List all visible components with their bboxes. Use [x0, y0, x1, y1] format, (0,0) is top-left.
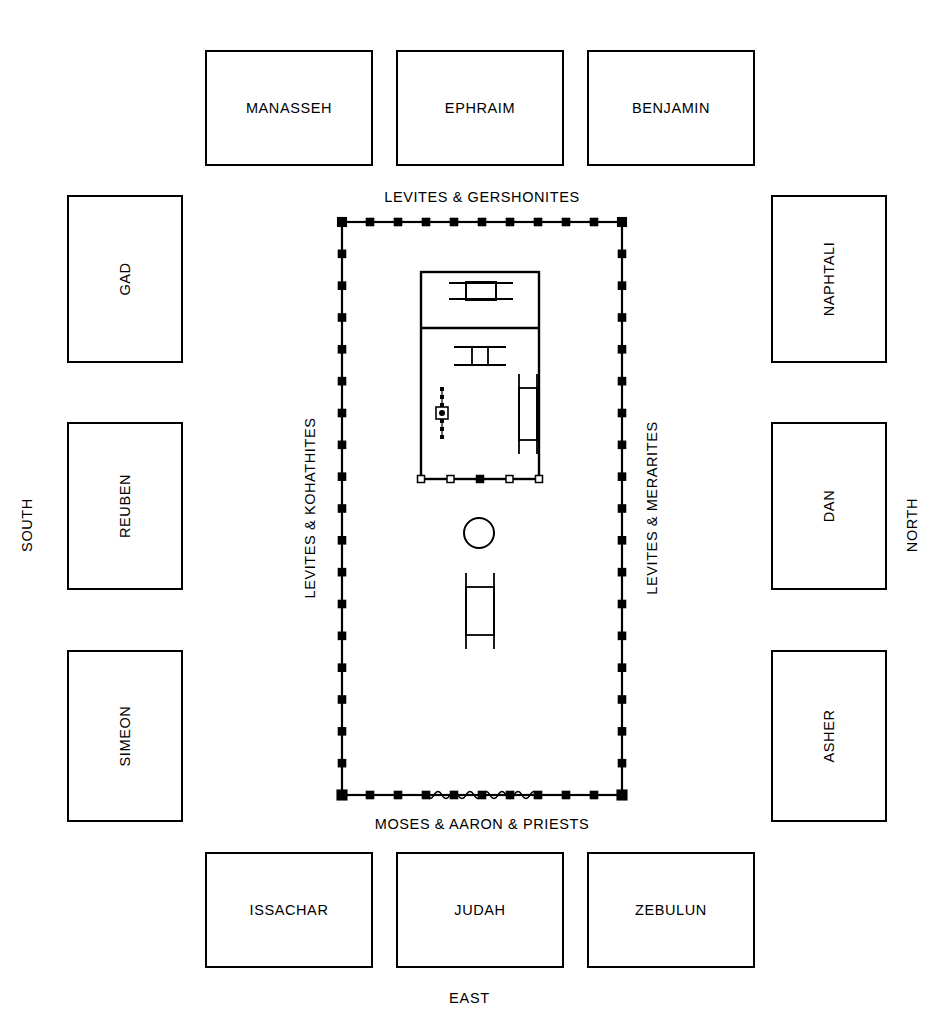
courtyard-post [339, 537, 346, 544]
direction-label-south: SOUTH [19, 475, 35, 575]
tribe-box-naphtali[interactable]: NAPHTALI [771, 195, 887, 363]
courtyard-post [339, 410, 346, 417]
courtyard-post [563, 219, 570, 226]
tabernacle-camp-diagram: MANASSEH EPHRAIM BENJAMIN GAD REUBEN SIM… [0, 0, 939, 1014]
tribe-box-asher[interactable]: ASHER [771, 650, 887, 822]
courtyard-post [339, 696, 346, 703]
courtyard-post [619, 250, 626, 257]
courtyard-post [619, 505, 626, 512]
tabernacle-entrance-post [447, 476, 454, 483]
courtyard-post [563, 792, 570, 799]
courtyard-perimeter [342, 222, 622, 795]
courtyard-post [367, 792, 374, 799]
tabernacle-outline [421, 272, 539, 479]
courtyard-post [339, 378, 346, 385]
altar-of-burnt-offering [466, 587, 494, 635]
courtyard-post [451, 219, 458, 226]
tribe-label: ZEBULUN [635, 902, 707, 918]
laver [464, 518, 494, 548]
label-levites-merarites: LEVITES & MERARITES [644, 398, 660, 618]
tribe-label: NAPHTALI [821, 242, 837, 317]
lampstand-branch-node [440, 387, 444, 391]
tabernacle-entrance-post [536, 476, 543, 483]
tribe-box-manasseh[interactable]: MANASSEH [205, 50, 373, 166]
courtyard-post [339, 346, 346, 353]
courtyard-post [395, 792, 402, 799]
tribe-label: ASHER [821, 710, 837, 763]
tribe-label: BENJAMIN [632, 100, 710, 116]
courtyard-post [339, 505, 346, 512]
direction-label-north: NORTH [904, 475, 920, 575]
courtyard-post [535, 792, 542, 799]
tribe-box-dan[interactable]: DAN [771, 422, 887, 590]
ark-of-the-covenant [466, 282, 496, 300]
courtyard-post [339, 664, 346, 671]
courtyard-post [339, 728, 346, 735]
tribe-box-reuben[interactable]: REUBEN [67, 422, 183, 590]
courtyard-post [339, 569, 346, 576]
tribe-box-simeon[interactable]: SIMEON [67, 650, 183, 822]
courtyard-post [619, 601, 626, 608]
tribe-box-issachar[interactable]: ISSACHAR [205, 852, 373, 968]
courtyard-post [451, 792, 458, 799]
courtyard-post [619, 282, 626, 289]
courtyard-post [423, 219, 430, 226]
courtyard-post [619, 537, 626, 544]
courtyard-post [507, 219, 514, 226]
courtyard-post [619, 569, 626, 576]
courtyard-post [338, 218, 347, 227]
courtyard-post [591, 219, 598, 226]
tribe-label: MANASSEH [246, 100, 332, 116]
tabernacle-entrance-post [477, 476, 484, 483]
courtyard-post [367, 219, 374, 226]
courtyard-post [339, 282, 346, 289]
lampstand-branch-node [440, 403, 444, 407]
courtyard-post [339, 314, 346, 321]
courtyard-post [337, 790, 347, 800]
courtyard-post [619, 728, 626, 735]
tribe-label: ISSACHAR [250, 902, 329, 918]
tribe-box-zebulun[interactable]: ZEBULUN [587, 852, 755, 968]
courtyard-post [395, 219, 402, 226]
courtyard-post [619, 441, 626, 448]
tribe-box-benjamin[interactable]: BENJAMIN [587, 50, 755, 166]
courtyard-post [339, 250, 346, 257]
courtyard-post [619, 314, 626, 321]
direction-label-east: EAST [0, 990, 939, 1006]
lampstand-branch-node [440, 395, 444, 399]
courtyard-post [339, 760, 346, 767]
lampstand-branch-node [440, 427, 444, 431]
courtyard-post [339, 632, 346, 639]
courtyard-post [619, 346, 626, 353]
label-levites-kohathites: LEVITES & KOHATHITES [302, 398, 318, 618]
courtyard-post [339, 601, 346, 608]
courtyard-post [535, 219, 542, 226]
tribe-label: DAN [821, 490, 837, 522]
tabernacle-entrance-post [418, 476, 425, 483]
courtyard-post [619, 760, 626, 767]
tribe-label: GAD [117, 262, 133, 295]
courtyard-post [619, 410, 626, 417]
label-levites-gershonites: LEVITES & GERSHONITES [342, 189, 622, 205]
tribe-label: REUBEN [117, 474, 133, 538]
courtyard-post [423, 792, 430, 799]
tribe-box-judah[interactable]: JUDAH [396, 852, 564, 968]
lampstand-base [436, 407, 448, 419]
courtyard-post [619, 473, 626, 480]
lampstand-branch-node [440, 435, 444, 439]
tribe-box-ephraim[interactable]: EPHRAIM [396, 50, 564, 166]
tribe-label: JUDAH [454, 902, 505, 918]
courtyard-post [479, 219, 486, 226]
altar-of-incense [472, 347, 488, 365]
courtyard-post [339, 473, 346, 480]
tabernacle-entrance-post [506, 476, 513, 483]
table-of-showbread [519, 388, 537, 440]
courtyard-post [619, 664, 626, 671]
courtyard-post [619, 696, 626, 703]
courtyard-post [339, 441, 346, 448]
lampstand-center-lamp [439, 410, 445, 416]
tribe-label: EPHRAIM [445, 100, 515, 116]
courtyard-post [479, 792, 486, 799]
tribe-box-gad[interactable]: GAD [67, 195, 183, 363]
lampstand-branch-node [440, 419, 444, 423]
